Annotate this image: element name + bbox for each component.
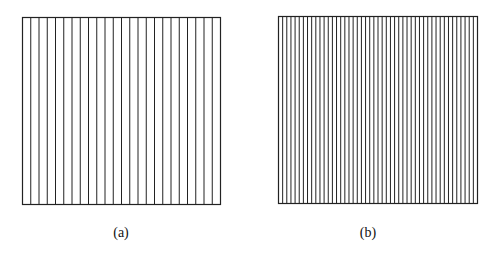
vertical-stripes-diagram-b [278,16,478,204]
panel-b-caption: (b) [348,225,388,241]
vertical-stripes-diagram-a [22,17,221,205]
panel-a-caption: (a) [101,225,141,241]
panel-b-striped-square [278,16,478,204]
panel-a-striped-square [22,17,221,205]
